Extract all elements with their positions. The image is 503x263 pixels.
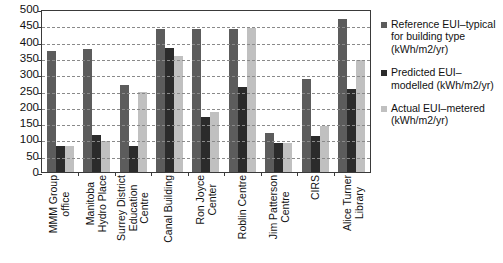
x-axis-label-line: Roblin Centre: [237, 175, 249, 239]
bar[interactable]: [120, 85, 129, 172]
x-axis-label-line: Ron Joyce: [195, 175, 207, 225]
plot-area: [41, 10, 371, 173]
y-axis-tick-label: 100: [20, 134, 39, 146]
y-axis-tick-label: 400: [20, 37, 39, 49]
bar-group: [297, 11, 333, 172]
legend-swatch-icon: [381, 106, 387, 112]
bar[interactable]: [56, 146, 65, 172]
gridline: [42, 60, 370, 61]
bar[interactable]: [265, 133, 274, 172]
bar[interactable]: [101, 141, 110, 172]
bar-group: [261, 11, 297, 172]
x-axis-label-cell: Alice TurnerLibrary: [334, 175, 371, 263]
legend-label: Reference EUI–typical for building type …: [391, 18, 503, 55]
bar-group: [188, 11, 224, 172]
bar-group: [78, 11, 114, 172]
x-axis-category-label: Roblin Centre: [237, 175, 249, 239]
y-axis-tick-label: 500: [20, 4, 39, 16]
bar[interactable]: [129, 146, 138, 172]
bar-group: [42, 11, 78, 172]
gridline: [42, 158, 370, 159]
legend-swatch-icon: [381, 70, 387, 76]
x-axis-label-cell: Roblin Centre: [224, 175, 261, 263]
x-axis-label-line: office: [59, 175, 71, 233]
bar[interactable]: [338, 19, 347, 172]
bar-groups: [42, 11, 370, 172]
legend-item[interactable]: Reference EUI–typical for building type …: [381, 18, 503, 55]
y-axis-tick-label: 50: [26, 151, 39, 163]
x-axis-labels: MMM GroupofficeManitobaHydro PlaceSurrey…: [41, 175, 371, 263]
x-axis-label-line: Manitoba: [85, 175, 97, 232]
x-axis-label-line: Hydro Place: [96, 175, 108, 232]
bar[interactable]: [156, 29, 165, 172]
y-axis-tick-label: 350: [20, 53, 39, 65]
bar[interactable]: [65, 146, 74, 172]
chart-legend: Reference EUI–typical for building type …: [381, 18, 503, 138]
bar[interactable]: [47, 51, 56, 172]
bar[interactable]: [229, 29, 238, 172]
x-axis-label-cell: Ron JoyceCenter: [188, 175, 225, 263]
x-axis-label-line: Canal Building: [164, 175, 176, 243]
y-axis-tick: [38, 11, 42, 12]
x-axis-label-line: Surrey District: [115, 175, 127, 241]
y-axis-tick-label: 450: [20, 20, 39, 32]
gridline: [42, 44, 370, 45]
gridline: [42, 76, 370, 77]
x-axis-label-cell: ManitobaHydro Place: [78, 175, 115, 263]
y-axis-tick-label: 300: [20, 69, 39, 81]
x-axis-category-label: Ron JoyceCenter: [195, 175, 218, 225]
bar[interactable]: [347, 89, 356, 172]
y-axis-tick-label: 150: [20, 118, 39, 130]
x-axis-label-line: Library: [353, 175, 365, 231]
legend-label: Predicted EUI–modelled (kWh/m2/yr): [391, 66, 503, 91]
x-axis-category-label: Canal Building: [164, 175, 176, 243]
x-axis-label-line: Education: [127, 175, 139, 241]
x-axis-category-label: Alice TurnerLibrary: [341, 175, 364, 231]
x-axis-label-cell: Canal Building: [151, 175, 188, 263]
bar[interactable]: [138, 92, 147, 172]
x-axis-label-cell: Jim PattersonCentre: [261, 175, 298, 263]
y-axis-tick-label: 200: [20, 102, 39, 114]
bar[interactable]: [174, 56, 183, 172]
y-axis-tick-label: 250: [20, 86, 39, 98]
bar-chart: 050100150200250300350400450500 MMM Group…: [0, 0, 503, 263]
x-axis-label-line: CIRS: [310, 175, 322, 200]
legend-item[interactable]: Actual EUI–metered (kWh/m2/yr): [381, 102, 503, 127]
x-axis-label-cell: CIRS: [298, 175, 335, 263]
bar-group: [224, 11, 260, 172]
gridline: [42, 109, 370, 110]
x-axis-label-cell: Surrey DistrictEducationCentre: [114, 175, 151, 263]
bar[interactable]: [247, 28, 256, 172]
bar-group: [334, 11, 370, 172]
x-axis-label-cell: MMM Groupoffice: [41, 175, 78, 263]
legend-item[interactable]: Predicted EUI–modelled (kWh/m2/yr): [381, 66, 503, 91]
gridline: [42, 93, 370, 94]
x-axis-category-label: CIRS: [310, 175, 322, 200]
gridline: [42, 27, 370, 28]
y-axis-tick-label: 0: [33, 167, 39, 179]
gridline: [42, 125, 370, 126]
bar[interactable]: [83, 49, 92, 172]
legend-label: Actual EUI–metered (kWh/m2/yr): [391, 102, 503, 127]
y-axis: 050100150200250300350400450500: [0, 0, 39, 183]
x-axis-label-line: Centre: [138, 175, 150, 241]
bar[interactable]: [238, 87, 247, 172]
bar-group: [151, 11, 187, 172]
bar[interactable]: [192, 29, 201, 172]
bar[interactable]: [320, 126, 329, 172]
x-axis-category-label: Surrey DistrictEducationCentre: [115, 175, 150, 241]
gridline: [42, 141, 370, 142]
bar[interactable]: [92, 135, 101, 172]
x-axis-category-label: MMM Groupoffice: [48, 175, 71, 233]
legend-swatch-icon: [381, 22, 387, 28]
x-axis-label-line: Alice Turner: [341, 175, 353, 231]
x-axis-category-label: Jim PattersonCentre: [268, 175, 291, 239]
bar-group: [115, 11, 151, 172]
bar[interactable]: [165, 48, 174, 172]
x-axis-label-line: Centre: [279, 175, 291, 239]
x-axis-category-label: ManitobaHydro Place: [85, 175, 108, 232]
x-axis-label-line: Center: [206, 175, 218, 225]
